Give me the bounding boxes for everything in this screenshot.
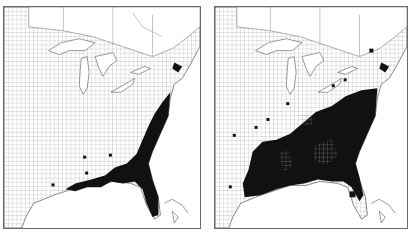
map-panel-left: Distribution map A	[3, 6, 201, 229]
eastern-us-county-map	[4, 7, 200, 228]
map-panel-right: Distribution map B	[214, 6, 408, 229]
eastern-us-county-map	[215, 7, 407, 228]
